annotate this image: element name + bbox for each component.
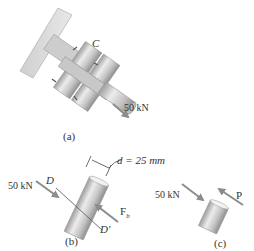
label-connection-c: C — [92, 38, 99, 49]
label-section-d: D — [46, 175, 54, 186]
bolt-section-c — [198, 198, 229, 234]
label-section-d-prime: D′ — [100, 224, 110, 235]
label-internal-force-p: P — [236, 190, 242, 201]
diameter-dimension — [86, 156, 121, 176]
label-force-c: 50 kN — [155, 190, 180, 200]
label-diameter: d = 25 mm — [117, 155, 165, 166]
panel-a — [20, 8, 138, 117]
force-arrow-c-left — [182, 184, 203, 200]
caption-b: (b) — [65, 236, 78, 247]
caption-c: (c) — [214, 238, 226, 249]
label-force-b: 50 kN — [8, 181, 33, 191]
caption-a: (a) — [63, 131, 75, 142]
label-reaction-fb: Fb — [120, 206, 130, 220]
reaction-arrow-fb — [96, 205, 118, 222]
panel-c — [182, 184, 243, 234]
label-force-a: 50 kN — [124, 103, 149, 113]
